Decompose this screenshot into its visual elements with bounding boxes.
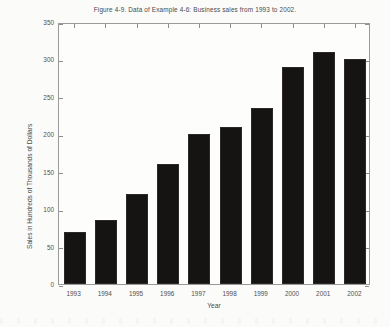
scan-artifact xyxy=(0,318,390,324)
y-axis-tick-label: 100 xyxy=(28,206,54,213)
y-axis-tick xyxy=(59,248,63,249)
y-axis-tick xyxy=(59,136,63,137)
bar xyxy=(126,194,148,284)
y-axis-tick xyxy=(59,24,63,25)
y-axis-tick-label: 350 xyxy=(28,19,54,26)
y-axis-tick-label: 50 xyxy=(28,244,54,251)
y-axis-tick xyxy=(59,286,63,287)
x-axis-tick-top xyxy=(293,24,294,28)
y-axis-tick-label: 250 xyxy=(28,94,54,101)
bar xyxy=(313,52,335,284)
x-axis-tick-top xyxy=(137,24,138,28)
x-axis-tick-label: 1994 xyxy=(89,290,120,297)
y-axis-tick xyxy=(59,211,63,212)
chart-title: Figure 4-9. Data of Example 4-6: Busines… xyxy=(0,6,390,13)
plot-frame xyxy=(58,23,370,285)
x-axis-tick-top xyxy=(230,24,231,28)
bar xyxy=(251,108,273,284)
x-axis-tick-top xyxy=(105,24,106,28)
y-axis-tick-right xyxy=(365,24,369,25)
x-axis-tick-label: 1995 xyxy=(120,290,151,297)
x-axis-tick-top xyxy=(199,24,200,28)
x-axis-tick-label: 1997 xyxy=(183,290,214,297)
y-axis-title: Sales in Hundreds of Thousands of Dollar… xyxy=(26,124,33,249)
y-axis-tick xyxy=(59,173,63,174)
y-axis-tick xyxy=(59,98,63,99)
x-axis-tick-label: 2001 xyxy=(308,290,339,297)
bar xyxy=(157,164,179,284)
x-axis-tick-label: 1999 xyxy=(245,290,276,297)
bar xyxy=(95,220,117,284)
plot-area xyxy=(59,24,369,284)
x-axis-tick-label: 2000 xyxy=(276,290,307,297)
y-axis-tick-right xyxy=(365,286,369,287)
bar xyxy=(188,134,210,284)
x-axis-tick-top xyxy=(261,24,262,28)
y-axis-tick-label: 150 xyxy=(28,169,54,176)
x-axis-title: Year xyxy=(58,302,370,309)
y-axis-tick xyxy=(59,61,63,62)
figure-container: Figure 4-9. Data of Example 4-6: Busines… xyxy=(0,0,390,327)
x-axis-tick-label: 1996 xyxy=(152,290,183,297)
bar xyxy=(282,67,304,284)
y-axis-tick-label: 200 xyxy=(28,131,54,138)
bar xyxy=(220,127,242,284)
x-axis-tick-label: 1998 xyxy=(214,290,245,297)
y-axis-tick-label: 0 xyxy=(28,281,54,288)
bar xyxy=(344,59,366,284)
x-axis-tick-top xyxy=(168,24,169,28)
y-axis-tick-label: 300 xyxy=(28,56,54,63)
x-axis-tick-label: 1993 xyxy=(58,290,89,297)
bar xyxy=(64,232,86,284)
x-axis-tick-top xyxy=(324,24,325,28)
x-axis-tick-label: 2002 xyxy=(339,290,370,297)
x-axis-tick-top xyxy=(74,24,75,28)
x-axis-tick-top xyxy=(355,24,356,28)
